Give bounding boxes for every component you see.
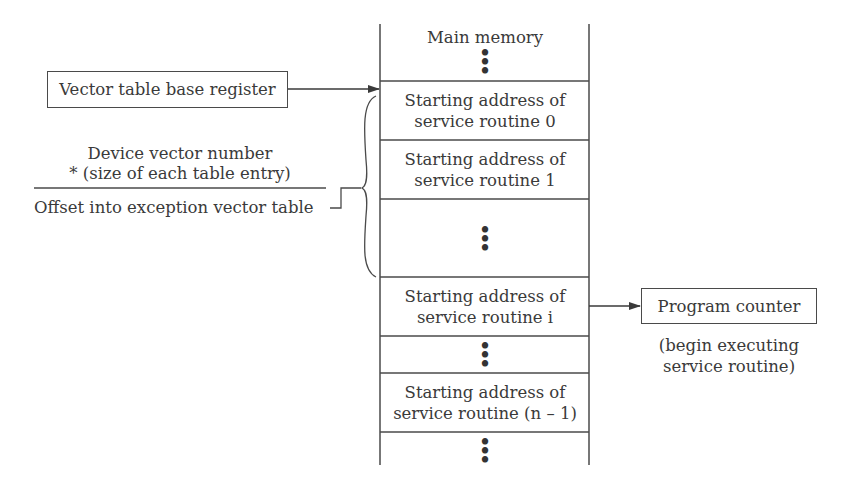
memory-header-cell: Main memory ••• [381,22,589,80]
offset-connector [330,188,361,208]
ellipsis-icon: ••• [479,437,491,464]
memory-entry-0: Starting address of service routine 0 [381,81,589,140]
offset-brace [362,96,376,277]
vector-table-base-register-label: Vector table base register [59,79,276,100]
program-counter-note-2: service routine) [641,356,817,377]
offset-label: Offset into exception vector table [34,197,326,218]
memory-tail-cell: ••• [381,432,589,468]
memory-gap-cell: ••• [381,199,589,277]
ellipsis-icon: ••• [479,225,491,252]
program-counter-box: Program counter [641,288,817,324]
ellipsis-icon: ••• [479,341,491,368]
memory-entry-i: Starting address of service routine i [381,277,589,336]
memory-entry-1: Starting address of service routine 1 [381,140,589,199]
program-counter-label: Program counter [658,296,801,317]
entry-size-label: * (size of each table entry) [34,163,326,184]
memory-entry-n-minus-1: Starting address of service routine (n –… [381,373,589,432]
device-vector-number-label: Device vector number [34,143,326,164]
program-counter-note-1: (begin executing [641,335,817,356]
ellipsis-icon: ••• [479,48,491,75]
vector-table-base-register-box: Vector table base register [47,71,288,108]
memory-gap-cell: ••• [381,336,589,373]
